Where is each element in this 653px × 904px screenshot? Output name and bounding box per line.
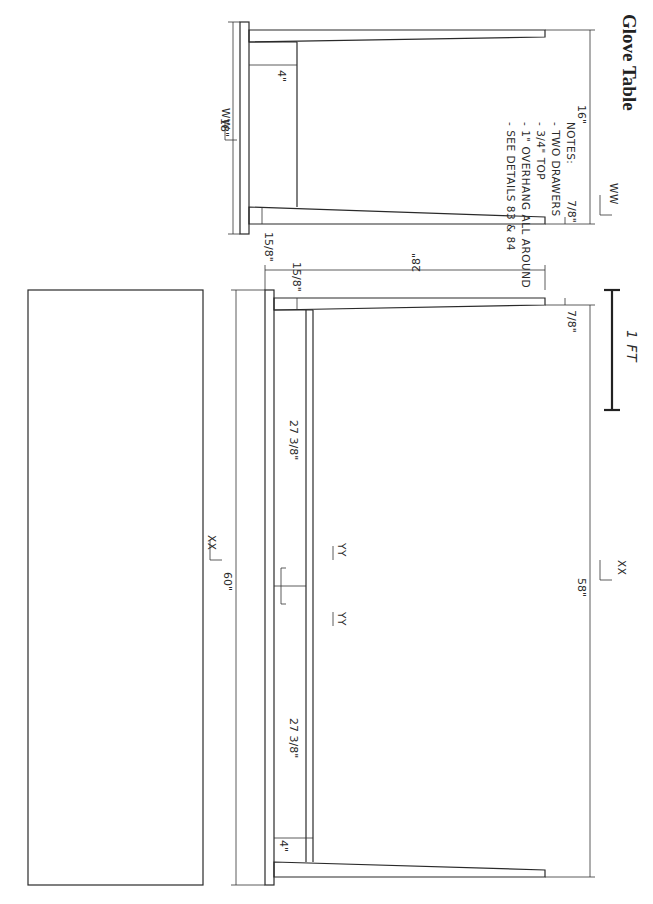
dim-front-leg-foot: 7/8" (565, 310, 578, 333)
note-item: - TWO DRAWERS (548, 122, 563, 288)
section-label-xx-top: XX (206, 535, 218, 550)
dim-drawer-1: 27 3/8" (287, 420, 300, 460)
detail-label-yy-a: YY (336, 543, 348, 557)
side-leg-2 (249, 207, 545, 224)
dim-side-inner: 16" (575, 105, 588, 124)
front-leg-2 (274, 862, 545, 877)
dim-height: 28" (410, 253, 423, 272)
front-leg-1 (274, 298, 545, 310)
dim-front-leg-top: 15/8" (290, 262, 303, 292)
note-item: - 3/4" TOP (533, 122, 548, 288)
section-label-xx-bottom: XX (616, 560, 628, 575)
dim-width: 60" (221, 572, 234, 591)
dim-side-leg-top: 15/8" (262, 232, 275, 262)
dim-side-leg-foot: 7/8" (565, 200, 578, 223)
note-item: - 1" OVERHANG ALL AROUND (518, 122, 533, 288)
dim-front-inner: 58" (575, 578, 588, 597)
dim-front-apron: 4" (277, 840, 290, 852)
plan-view-rect (28, 290, 203, 885)
dim-depth: 18" (218, 118, 231, 137)
front-top (265, 290, 274, 885)
detail-label-yy-b: YY (336, 612, 348, 626)
dim-side-apron: 4" (275, 70, 288, 82)
side-top (240, 22, 249, 234)
drawing-title: Glove Table (618, 14, 640, 111)
section-label-ww-bottom: WW (608, 183, 620, 205)
scale-bar-label: 1 FT (624, 330, 640, 362)
note-item: - SEE DETAILS 83 & 84 (503, 122, 518, 288)
dim-drawer-2: 27 3/8" (287, 718, 300, 758)
side-leg-1 (249, 30, 545, 42)
